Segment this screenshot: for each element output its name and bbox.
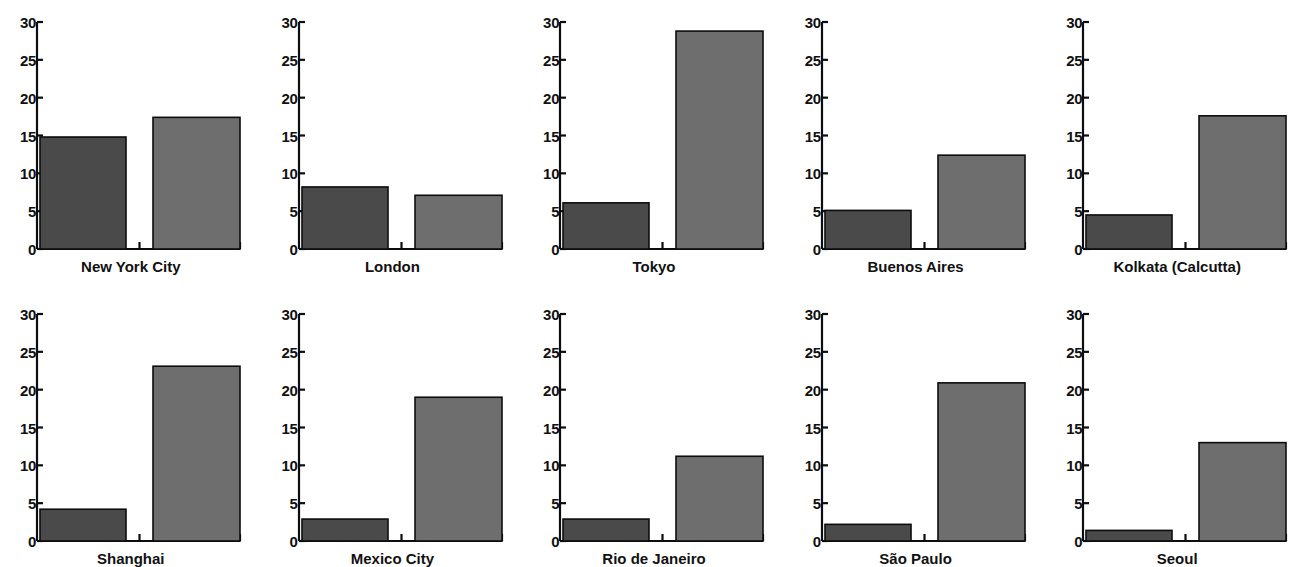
- bar-series-2: [676, 456, 763, 541]
- plot-area: [262, 292, 524, 548]
- chart-panel: 302520151050Seoul: [1046, 292, 1308, 567]
- panel-label: Tokyo: [523, 258, 785, 275]
- plot-area: [523, 0, 785, 256]
- bar-series-1: [825, 524, 911, 541]
- plot-area: [785, 0, 1047, 256]
- chart-panel: 302520151050Mexico City: [262, 292, 524, 567]
- panel-label: Mexico City: [262, 550, 524, 567]
- bar-series-1: [1086, 530, 1172, 541]
- bar-series-1: [563, 519, 649, 541]
- bar-series-1: [825, 210, 911, 249]
- chart-panel: 302520151050Rio de Janeiro: [523, 292, 785, 567]
- plot-area: [785, 292, 1047, 548]
- bar-series-2: [415, 397, 502, 541]
- chart-panel: 302520151050Shanghai: [0, 292, 262, 567]
- bar-series-1: [302, 187, 388, 249]
- bar-series-1: [40, 137, 126, 249]
- bar-series-1: [40, 509, 126, 541]
- plot-area: [1046, 0, 1308, 256]
- panel-label: London: [262, 258, 524, 275]
- chart-panel: 302520151050Kolkata (Calcutta): [1046, 0, 1308, 292]
- chart-panel: 302520151050New York City: [0, 0, 262, 292]
- bar-series-2: [676, 31, 763, 249]
- bar-series-2: [938, 155, 1025, 249]
- bar-series-2: [1199, 116, 1286, 249]
- plot-area: [0, 0, 262, 256]
- plot-area: [523, 292, 785, 548]
- chart-panel: 302520151050Tokyo: [523, 0, 785, 292]
- chart-panel: 302520151050Buenos Aires: [785, 0, 1047, 292]
- panel-label: Buenos Aires: [785, 258, 1047, 275]
- small-multiples-bar-chart-grid: 302520151050New York City302520151050Lon…: [0, 0, 1308, 567]
- panel-label: São Paulo: [785, 550, 1047, 567]
- panel-label: New York City: [0, 258, 262, 275]
- bar-series-1: [302, 519, 388, 541]
- bar-series-1: [563, 203, 649, 249]
- bar-series-1: [1086, 215, 1172, 249]
- panel-label: Shanghai: [0, 550, 262, 567]
- plot-area: [1046, 292, 1308, 548]
- bar-series-2: [415, 195, 502, 249]
- bar-series-2: [153, 117, 240, 249]
- bar-series-2: [153, 366, 240, 541]
- chart-panel: 302520151050São Paulo: [785, 292, 1047, 567]
- plot-area: [262, 0, 524, 256]
- panel-label: Rio de Janeiro: [523, 550, 785, 567]
- bar-series-2: [938, 383, 1025, 541]
- plot-area: [0, 292, 262, 548]
- bar-series-2: [1199, 443, 1286, 541]
- panel-label: Kolkata (Calcutta): [1046, 258, 1308, 275]
- panel-label: Seoul: [1046, 550, 1308, 567]
- chart-panel: 302520151050London: [262, 0, 524, 292]
